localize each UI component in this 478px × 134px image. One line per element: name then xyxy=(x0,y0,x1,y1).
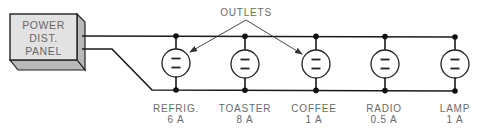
outlet-current: 1 A xyxy=(306,114,323,125)
junction-dot-bottom xyxy=(313,88,319,94)
outlet-current: 8 A xyxy=(237,114,254,125)
outlet-current: 6 A xyxy=(168,114,185,125)
junction-dot-top xyxy=(382,34,388,40)
outlets-callout: OUTLETS xyxy=(190,7,302,54)
junction-dot-top xyxy=(242,33,248,39)
outlet-name: TOASTER xyxy=(219,103,272,114)
outlet-name: COFFEE xyxy=(291,103,336,114)
junction-dot-bottom xyxy=(173,87,179,93)
power-distribution-panel: POWER DIST. PANEL xyxy=(10,14,85,70)
panel-label-line-1: POWER xyxy=(22,19,65,31)
outlet-coffee: COFFEE 1 A xyxy=(291,34,336,125)
junction-dot-top xyxy=(313,34,319,40)
junction-dot-bottom xyxy=(382,88,388,94)
outlet-lamp: LAMP 1 A xyxy=(440,34,470,125)
hot-wire xyxy=(82,36,455,37)
outlet-refrig: REFRIG. 6 A xyxy=(153,33,199,125)
outlet-name: LAMP xyxy=(440,103,470,114)
outlet-receptacle-icon xyxy=(302,50,330,78)
outlet-receptacle-icon xyxy=(371,50,399,78)
outlet-current: 0.5 A xyxy=(371,114,398,125)
outlet-name: REFRIG. xyxy=(153,103,199,114)
panel-bottom-face xyxy=(10,60,85,70)
junction-dot-bottom xyxy=(452,88,458,94)
outlet-current: 1 A xyxy=(447,114,464,125)
outlet-receptacle-icon xyxy=(441,50,469,78)
outlet-toaster: TOASTER 8 A xyxy=(219,33,272,125)
outlet-name: RADIO xyxy=(366,103,402,114)
junction-dot-bottom xyxy=(242,87,248,93)
panel-label-line-3: PANEL xyxy=(25,45,62,57)
outlet-receptacle-icon xyxy=(162,49,190,77)
junction-dot-top xyxy=(173,33,179,39)
neutral-wire xyxy=(82,49,455,91)
panel-label-line-2: DIST. xyxy=(29,32,58,44)
outlets-label: OUTLETS xyxy=(220,7,272,18)
junction-dot-top xyxy=(452,34,458,40)
outlet-receptacle-icon xyxy=(231,50,259,78)
outlet-radio: RADIO 0.5 A xyxy=(366,34,402,125)
parallel-circuit-diagram: POWER DIST. PANEL OUTLETS REFRIG. 6 A TO… xyxy=(0,0,478,134)
